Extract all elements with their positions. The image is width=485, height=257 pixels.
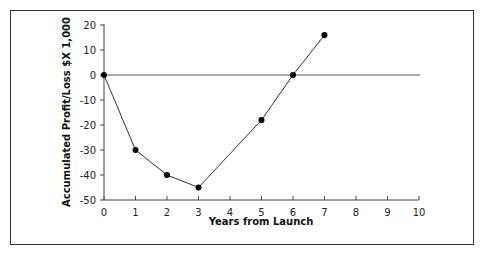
- x-tick-label: 9: [384, 207, 390, 218]
- x-ticks: 012345678910: [101, 196, 426, 218]
- x-axis-title: Years from Launch: [208, 216, 314, 227]
- y-tick-label: 20: [83, 20, 96, 31]
- y-ticks: 20100-10-20-30-40-50: [80, 20, 104, 206]
- y-tick-label: -10: [80, 95, 96, 106]
- y-tick-label: -30: [80, 145, 96, 156]
- series-line: [101, 32, 328, 191]
- data-point-marker: [259, 117, 265, 123]
- data-point-marker: [133, 147, 139, 153]
- x-tick-label: 2: [164, 207, 170, 218]
- x-tick-label: 7: [321, 207, 327, 218]
- x-tick-label: 3: [195, 207, 201, 218]
- y-tick-label: -20: [80, 120, 96, 131]
- x-tick-label: 10: [413, 207, 426, 218]
- series-polyline: [104, 35, 325, 188]
- y-tick-label: 10: [83, 45, 96, 56]
- x-tick-label: 0: [101, 207, 107, 218]
- data-point-marker: [101, 72, 107, 78]
- data-point-marker: [322, 32, 328, 38]
- y-axis-title: Accumulated Profit/Loss $X 1,000: [61, 17, 72, 207]
- y-tick-label: -40: [80, 170, 96, 181]
- y-tick-label: 0: [90, 70, 96, 81]
- data-point-marker: [290, 72, 296, 78]
- data-point-marker: [196, 185, 202, 191]
- y-tick-label: -50: [80, 195, 96, 206]
- x-tick-label: 8: [353, 207, 359, 218]
- data-point-marker: [164, 172, 170, 178]
- x-tick-label: 1: [132, 207, 138, 218]
- line-chart: 20100-10-20-30-40-50 012345678910 Years …: [0, 0, 485, 257]
